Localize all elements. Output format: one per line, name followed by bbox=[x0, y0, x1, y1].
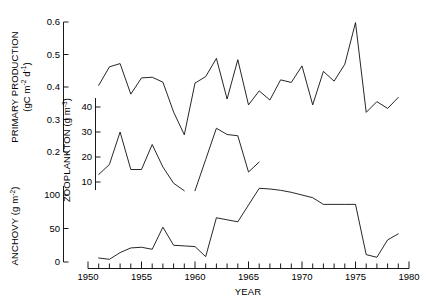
an-unit-prefix: ANCHOVY (g m bbox=[9, 196, 20, 266]
an-tick-label-50: 50 bbox=[49, 223, 60, 234]
pp-unit-prefix: (gC m bbox=[21, 85, 32, 111]
figure-container: 0.6 0.5 0.4 0.3 0.2 PRIMARY PRODUCTION (… bbox=[0, 0, 423, 306]
pp-tick-label-1: 0.5 bbox=[47, 49, 60, 60]
zp-tick-label-30: 30 bbox=[81, 126, 92, 137]
pp-axis-title-line1: PRIMARY PRODUCTION bbox=[9, 31, 20, 142]
zp-tick-label-40: 40 bbox=[81, 101, 92, 112]
x-axis-title: YEAR bbox=[235, 286, 262, 297]
zooplankton-axis-title: ZOOPLANKTON (g m-3) bbox=[61, 98, 73, 202]
year-tick-label: 1970 bbox=[291, 271, 312, 282]
anchovy-axis-title: ANCHOVY (g m-2) bbox=[9, 187, 21, 266]
pp-tick-label-4: 0.2 bbox=[47, 146, 60, 157]
pp-axis-title: PRIMARY PRODUCTION (gC m-2 d-1) bbox=[9, 31, 32, 142]
multi-panel-time-series-chart: 0.6 0.5 0.4 0.3 0.2 PRIMARY PRODUCTION (… bbox=[0, 0, 423, 306]
year-tick-label: 1950 bbox=[77, 271, 98, 282]
zp-tick-label-10: 10 bbox=[81, 176, 92, 187]
year-tick-label: 1955 bbox=[131, 271, 152, 282]
pp-tick-label-3: 0.3 bbox=[47, 114, 60, 125]
an-tick-label-100: 100 bbox=[44, 189, 60, 200]
zp-unit-prefix: ZOOPLANKTON (g m bbox=[61, 107, 72, 202]
pp-tick-label-2: 0.4 bbox=[47, 81, 60, 92]
zp-unit-suffix: ) bbox=[61, 98, 72, 101]
pp-unit-suffix: ) bbox=[21, 62, 32, 65]
series-line-zooplankton-segment-1 bbox=[99, 132, 185, 191]
series-line-zooplankton-segment-2 bbox=[195, 128, 259, 191]
year-tick-label: 1975 bbox=[345, 271, 366, 282]
an-unit-suffix: ) bbox=[9, 187, 20, 190]
pp-tick-label-0: 0.6 bbox=[47, 16, 60, 27]
year-tick-label: 1965 bbox=[238, 271, 259, 282]
year-axis-tick-labels: 1950195519601965197019751980 bbox=[77, 271, 419, 282]
zp-tick-label-20: 20 bbox=[81, 151, 92, 162]
year-axis-minor-ticks bbox=[88, 262, 409, 269]
pp-unit-mid: d bbox=[21, 71, 32, 79]
series-line-primary-production bbox=[99, 23, 399, 135]
year-axis bbox=[88, 262, 409, 269]
year-tick-label: 1960 bbox=[184, 271, 205, 282]
svg-text:ZOOPLANKTON (g m-3): ZOOPLANKTON (g m-3) bbox=[61, 98, 73, 202]
pp-axis-title-line2: (gC m-2 d-1) bbox=[20, 62, 32, 112]
year-tick-label: 1980 bbox=[398, 271, 419, 282]
series-line-anchovy bbox=[99, 188, 399, 259]
zooplankton-axis bbox=[96, 98, 101, 190]
an-tick-label-0: 0 bbox=[55, 256, 60, 267]
svg-text:ANCHOVY (g m-2): ANCHOVY (g m-2) bbox=[9, 187, 21, 266]
